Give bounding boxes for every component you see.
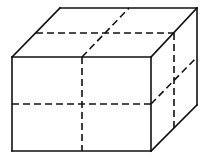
cube-diagram	[0, 0, 210, 161]
dashed-midline	[82, 8, 129, 57]
solid-edges	[12, 8, 197, 151]
